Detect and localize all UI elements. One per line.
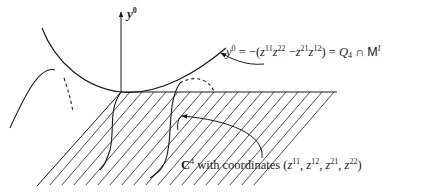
eq-q: Q <box>339 45 348 59</box>
plane-coordinates-label: C4 with coordinates (z11, z12, z21, z22) <box>181 158 362 173</box>
eq-term-sup: 21 <box>301 44 309 53</box>
coord-text: with coordinates ( <box>194 158 287 172</box>
eq-minus: − <box>286 45 296 59</box>
quadric-equation-label: y0 = −(z11z22 −z21z12) = Q4 ∩ MI <box>226 45 380 60</box>
eq-equals: = −( <box>236 45 261 59</box>
eq-m-sup: I <box>378 44 381 53</box>
section-curve-2 <box>150 83 180 178</box>
quadric-curve <box>42 28 226 92</box>
eq-intersection: ∩ <box>352 45 367 59</box>
eq-close: ) = <box>321 45 338 59</box>
plane-small-hook <box>178 116 182 130</box>
eq-term-sup: 11 <box>265 44 273 53</box>
coord-sup: 12 <box>311 157 319 166</box>
section-dashed-arc <box>180 79 214 92</box>
coord-sup: 11 <box>292 157 300 166</box>
axis-superscript: 0 <box>133 6 137 15</box>
c4-symbol: C <box>181 158 190 172</box>
eq-m: M <box>367 45 377 59</box>
left-section-dashed <box>64 78 73 112</box>
coord-close: ) <box>357 158 361 172</box>
left-section-curve <box>10 69 55 128</box>
plane-hatching <box>37 92 334 192</box>
y0-axis-label: y0 <box>127 6 137 22</box>
plane-left-edge <box>37 92 121 186</box>
eq-term-sup: 22 <box>278 44 286 53</box>
